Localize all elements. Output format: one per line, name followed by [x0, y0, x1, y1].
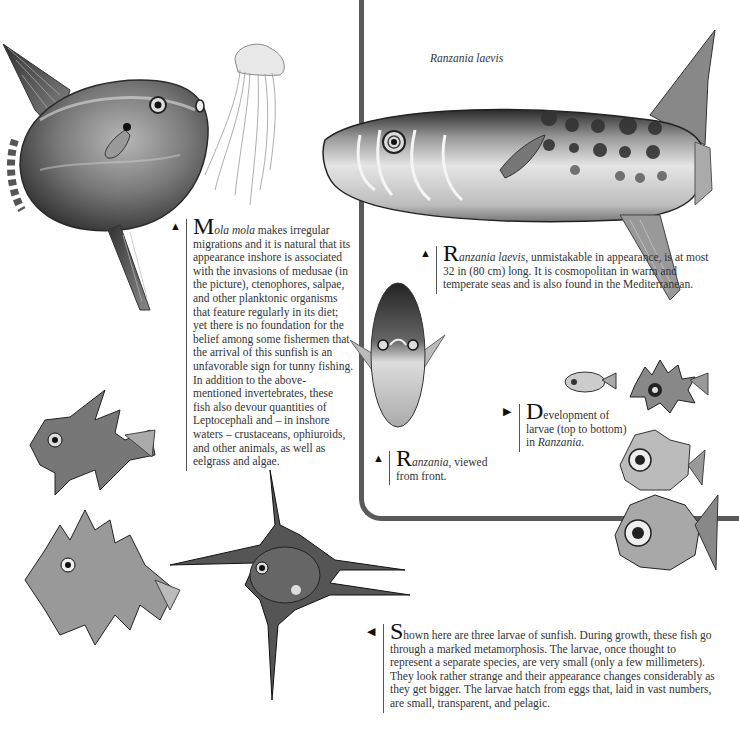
caption-rule — [519, 404, 520, 452]
caption-ranzania-laevis: ▲ Ranzania laevis, unmistakable in appea… — [443, 244, 713, 292]
caption-italic-name: Ranzania — [538, 436, 581, 448]
drop-cap: S — [390, 618, 403, 644]
caption-italic-name: anzania laevis — [459, 251, 525, 263]
caption-arrow-up-icon: ▲ — [170, 221, 181, 232]
caption-arrow-right-icon: ▶ — [503, 406, 511, 417]
caption-rule — [383, 624, 384, 713]
caption-italic-name: anzania — [412, 456, 448, 468]
jellyfish-illustration — [200, 40, 300, 210]
sunfish-larva-3 — [170, 470, 410, 700]
larvae-development-illustration — [560, 355, 719, 585]
caption-italic-name: ola mola — [214, 224, 255, 236]
caption-body: makes irregular migrations and it is nat… — [193, 224, 353, 467]
caption-arrow-up-icon: ▲ — [373, 453, 384, 464]
drop-cap: R — [396, 445, 412, 471]
caption-arrow-left-icon: ◀ — [367, 626, 375, 637]
caption-rule — [186, 219, 187, 471]
drop-cap: M — [193, 213, 214, 239]
caption-rule — [389, 451, 390, 485]
caption-arrow-up-icon: ▲ — [420, 248, 431, 259]
caption-larvae: ◀ Shown here are three larvae of sunfish… — [390, 622, 715, 711]
drop-cap: R — [443, 240, 459, 266]
caption-rule — [436, 246, 437, 294]
sunfish-larva-2 — [25, 510, 180, 645]
larva-stage-4 — [615, 495, 718, 570]
caption-mola-mola: ▲ Mola mola makes irregular migrations a… — [193, 217, 353, 469]
drop-cap: D — [526, 398, 543, 424]
caption-body: hown here are three larvae of sunfish. D… — [390, 629, 715, 709]
larva-stage-2 — [630, 360, 708, 413]
caption-end: . — [581, 436, 584, 448]
sunfish-larva-1 — [30, 390, 155, 495]
caption-ranzania-front: ▲ Ranzania, viewed from front. — [396, 449, 506, 483]
mola-mola-illustration — [0, 40, 215, 315]
larva-stage-1 — [565, 372, 616, 392]
caption-development: ▶ Development of larvae (top to bottom) … — [526, 402, 636, 450]
